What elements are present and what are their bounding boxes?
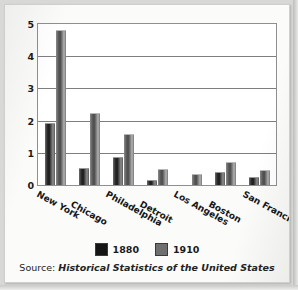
x-tick-label: San Francisco	[241, 189, 290, 232]
page-edge-bottom	[0, 285, 298, 290]
bar	[79, 168, 89, 185]
bar	[124, 134, 134, 185]
source-note: Source: Historical Statistics of the Uni…	[5, 262, 289, 273]
legend-item-1910: 1910	[155, 243, 199, 256]
bar-chart: People in millions 012345 New YorkChicag…	[5, 5, 289, 282]
source-prefix: Source:	[19, 262, 55, 273]
bar-groups	[38, 24, 276, 185]
bar	[249, 177, 259, 185]
bar	[215, 172, 225, 185]
legend-label: 1880	[113, 244, 139, 255]
y-tick-label: 0	[27, 180, 34, 191]
bar	[147, 180, 157, 185]
y-tick-label: 1	[27, 147, 34, 158]
y-tick-label: 4	[27, 51, 34, 62]
bar-group	[174, 24, 208, 185]
legend: 1880 1910	[5, 241, 289, 257]
bar-group	[208, 24, 242, 185]
legend-label: 1910	[173, 244, 199, 255]
legend-swatch-icon	[155, 243, 168, 256]
bar	[113, 157, 123, 185]
x-axis-labels: New YorkChicagoPhiladelphiaDetroitLos An…	[37, 187, 277, 245]
legend-item-1880: 1880	[95, 243, 139, 256]
y-tick-label: 3	[27, 83, 34, 94]
y-tick-label: 5	[27, 19, 34, 30]
bar	[226, 162, 236, 185]
bar	[90, 113, 100, 185]
source-title: Historical Statistics of the United Stat…	[58, 262, 274, 273]
bar-group	[242, 24, 276, 185]
bar	[192, 174, 202, 185]
bar	[158, 169, 168, 185]
scanned-page: People in millions 012345 New YorkChicag…	[4, 4, 290, 283]
y-tick-label: 2	[27, 115, 34, 126]
bar	[260, 170, 270, 185]
bar-group	[72, 24, 106, 185]
bar	[45, 123, 55, 185]
page-edge-right	[293, 0, 298, 290]
bar-group	[38, 24, 72, 185]
plot-area: 012345	[37, 23, 277, 186]
legend-swatch-icon	[95, 243, 108, 256]
bar	[56, 30, 66, 185]
bar-group	[106, 24, 140, 185]
bar-group	[140, 24, 174, 185]
